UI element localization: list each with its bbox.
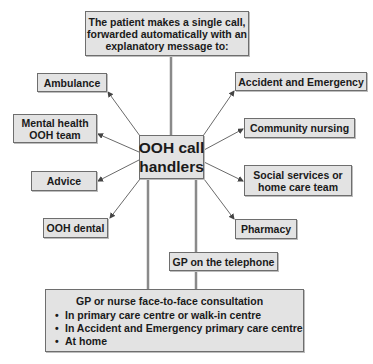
hub-label: handlers [139, 157, 204, 176]
title-box: The patient makes a single call, forward… [85, 11, 249, 56]
arrow-to-community-nursing [204, 129, 243, 150]
hub-label: OOH call [139, 138, 204, 157]
pharmacy-box: Pharmacy [235, 219, 297, 239]
arrow-to-advice [98, 160, 139, 181]
consultation-title: GP or nurse face-to-face consultation [76, 295, 263, 307]
consultation-list: In primary care centre or walk-in centre… [54, 309, 303, 348]
consultation-item: At home [54, 335, 303, 348]
consultation-box: GP or nurse face-to-face consultation In… [45, 289, 304, 352]
consultation-item: In Accident and Emergency primary care c… [54, 322, 303, 335]
social-services-box: Social services or home care team [244, 165, 352, 196]
arrow-to-accident-emergency [203, 91, 234, 136]
arrow-to-ambulance [108, 92, 140, 136]
arrow-to-ooh-dental [110, 179, 140, 218]
accident-emergency-label: Accident and Emergency [238, 76, 363, 88]
mental-health-label: OOH team [29, 129, 80, 141]
arrow-to-pharmacy [204, 179, 234, 219]
consultation-item: In primary care centre or walk-in centre [54, 309, 303, 322]
gp-telephone-box: GP on the telephone [169, 252, 278, 271]
mental-health-label: Mental health [21, 117, 88, 129]
pharmacy-label: Pharmacy [241, 223, 291, 235]
social-services-label: Social services or [253, 169, 342, 181]
community-nursing-label: Community nursing [250, 122, 349, 134]
ooh-call-handlers-hub: OOH call handlers [139, 135, 204, 179]
ooh-call-flow-diagram: The patient makes a single call, forward… [0, 0, 373, 364]
ambulance-box: Ambulance [37, 73, 107, 92]
mental-health-box: Mental health OOH team [13, 114, 97, 143]
arrow-to-mental-health [98, 134, 139, 152]
advice-box: Advice [31, 171, 97, 191]
title-line: forwarded automatically with an [87, 28, 247, 40]
accident-emergency-box: Accident and Emergency [235, 72, 367, 91]
title-line: explanatory message to: [105, 40, 228, 52]
social-services-label: home care team [258, 181, 338, 193]
ambulance-label: Ambulance [44, 77, 101, 89]
ooh-dental-box: OOH dental [43, 218, 108, 238]
gp-telephone-label: GP on the telephone [173, 256, 275, 268]
ooh-dental-label: OOH dental [47, 222, 105, 234]
advice-label: Advice [47, 175, 81, 187]
arrow-to-social-services [204, 162, 243, 181]
title-line: The patient makes a single call, [89, 16, 246, 28]
community-nursing-box: Community nursing [244, 118, 355, 138]
